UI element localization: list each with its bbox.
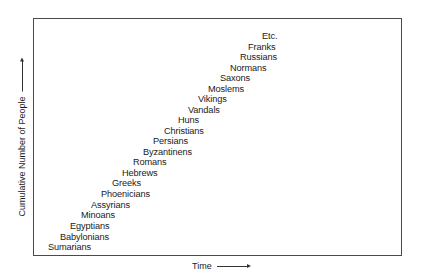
data-label: Franks bbox=[248, 42, 275, 52]
data-label: Vikings bbox=[198, 94, 227, 104]
data-label: Moslems bbox=[208, 84, 244, 94]
data-label: Sumarians bbox=[48, 242, 91, 252]
data-label: Saxons bbox=[220, 73, 250, 83]
data-label: Normans bbox=[230, 63, 267, 73]
data-label: Greeks bbox=[112, 178, 141, 188]
y-axis-label-text: Cumulative Number of People bbox=[17, 96, 27, 216]
data-label: Egyptians bbox=[70, 221, 109, 231]
data-label: Minoans bbox=[81, 210, 115, 220]
data-label: Huns bbox=[178, 115, 199, 125]
data-label: Romans bbox=[133, 157, 167, 167]
arrow-up-icon bbox=[22, 59, 23, 91]
data-label: Assyrians bbox=[91, 200, 130, 210]
data-label: Byzantinens bbox=[143, 147, 192, 157]
data-label: Christians bbox=[164, 126, 204, 136]
data-label: Vandals bbox=[188, 105, 220, 115]
x-axis-label-text: Time bbox=[192, 261, 212, 271]
data-label: Babylonians bbox=[60, 232, 109, 242]
y-axis-label: Cumulative Number of People bbox=[17, 59, 27, 216]
data-label: Persians bbox=[153, 136, 188, 146]
data-label: Russians bbox=[240, 52, 277, 62]
data-label: Phoenicians bbox=[101, 189, 150, 199]
x-axis-label: Time bbox=[192, 261, 249, 271]
data-label: Hebrews bbox=[122, 168, 158, 178]
arrow-right-icon bbox=[217, 266, 249, 267]
data-label: Etc. bbox=[262, 31, 277, 41]
